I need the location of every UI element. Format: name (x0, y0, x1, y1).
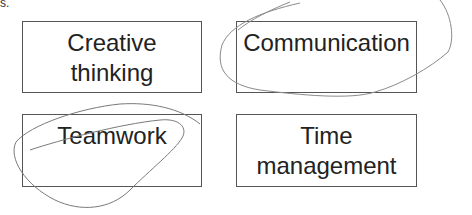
skill-label: Communication (237, 22, 416, 58)
skill-box-time-management: Time management (236, 114, 417, 187)
skill-box-creative-thinking: Creative thinking (22, 21, 202, 93)
skill-label: Time management (237, 115, 416, 181)
skill-label: Teamwork (23, 115, 201, 151)
skill-box-communication: Communication (236, 21, 417, 93)
skill-box-teamwork: Teamwork (22, 114, 202, 187)
skill-label: Creative thinking (23, 22, 201, 88)
cropped-text-fragment: s. (0, 0, 9, 10)
